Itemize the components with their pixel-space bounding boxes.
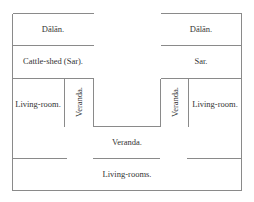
label-cattle-shed: Cattle-shed (Sar). bbox=[23, 56, 83, 66]
label-veranda-right: Veranda. bbox=[170, 87, 180, 117]
label-living-room-right: Living-room. bbox=[192, 99, 238, 109]
label-dalan-right: Dālān. bbox=[190, 24, 212, 34]
label-veranda-left: Veranda. bbox=[74, 87, 84, 117]
label-veranda-center: Veranda. bbox=[112, 137, 142, 147]
label-living-rooms: Living-rooms. bbox=[103, 169, 152, 179]
label-dalan-left: Dālān. bbox=[42, 24, 64, 34]
floor-plan: Dālān. Dālān. Cattle-shed (Sar). Sar. Li… bbox=[0, 0, 254, 202]
label-living-room-left: Living-room. bbox=[15, 99, 61, 109]
label-sar: Sar. bbox=[195, 56, 208, 66]
